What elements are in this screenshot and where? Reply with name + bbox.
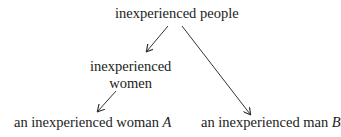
node-label: an inexperienced man [201,114,332,130]
node-label: an inexperienced woman [14,114,163,130]
node-woman-a: an inexperienced woman A [14,114,171,131]
node-label-line1: inexperienced [90,58,171,75]
node-inexperienced-people: inexperienced people [115,5,239,22]
variable-a: A [163,114,172,130]
arrow-root-to-women [147,26,168,51]
node-label-line2: women [90,75,171,92]
node-inexperienced-women: inexperienced women [90,58,171,92]
node-label: inexperienced people [115,5,239,21]
arrow-root-to-man-b [182,26,250,114]
arrow-women-to-woman-a [98,91,116,111]
variable-b: B [332,114,341,130]
node-man-b: an inexperienced man B [201,114,341,131]
